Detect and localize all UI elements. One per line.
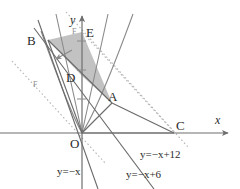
equation-label-minus-x-plus-12: y=−x+12 xyxy=(140,148,181,160)
point-label-a: A xyxy=(108,89,118,104)
point-label-f: F xyxy=(33,80,38,89)
segment-o-to-a xyxy=(82,103,112,133)
y-axis-label: y xyxy=(69,13,76,27)
x-axis-label: x xyxy=(214,113,221,127)
dotted-line-y-equals-minus-x-plus-12 xyxy=(66,12,188,147)
math-diagram-figure: x y O B E D A C F F y=−x+12 y=−x+6 y=−x xyxy=(0,0,240,189)
point-label-o: O xyxy=(70,136,79,151)
equation-label-minus-x-plus-6: y=−x+6 xyxy=(126,168,162,180)
point-label-c: C xyxy=(176,118,185,133)
coordinate-plane-svg: x y O B E D A C F F y=−x+12 y=−x+6 y=−x xyxy=(0,0,240,189)
point-label-b: B xyxy=(27,33,36,48)
segment-a-to-c xyxy=(112,103,174,133)
point-label-d: D xyxy=(66,70,75,85)
equation-label-minus-x: y=−x xyxy=(57,165,81,177)
point-label-e: E xyxy=(86,25,94,40)
point-label-f-upper: F xyxy=(72,27,77,36)
